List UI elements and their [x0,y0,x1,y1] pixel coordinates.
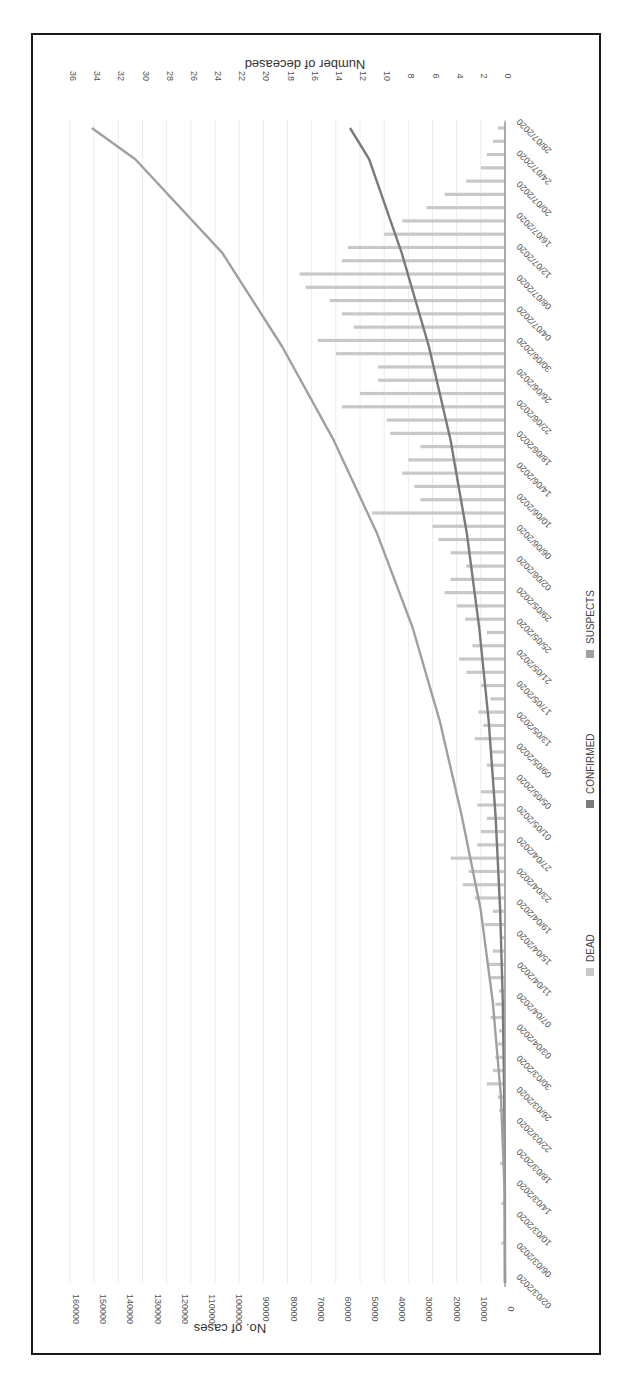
left-axis-tick: 100000 [234,1294,244,1324]
dead-bar [451,551,505,554]
dead-bar [445,193,505,196]
dead-bar [493,140,505,143]
legend-swatch-suspects [586,650,594,658]
left-axis-tick: 150000 [98,1294,108,1324]
dead-bar [408,458,505,461]
dead-bar [348,246,505,249]
legend-swatch-dead [586,968,594,976]
dead-bar [491,750,506,753]
dead-bar [330,299,505,302]
left-axis-tick: 50000 [370,1296,380,1321]
dead-bar [477,843,505,846]
dead-bar [498,126,505,129]
left-axis-tick: 140000 [125,1294,135,1324]
left-axis-tick: 0 [506,1306,516,1311]
right-axis-tick: 30 [141,71,151,81]
dead-bar [384,233,505,236]
dead-bar [342,405,505,408]
legend-label-suspects: SUSPECTS [585,590,596,644]
dead-bar [402,219,505,222]
right-axis-title: Number of deceased [245,57,366,72]
left-axis-tick: 70000 [316,1296,326,1321]
left-axis-tick: 10000 [479,1296,489,1321]
legend-swatch-confirmed [586,800,594,808]
dead-bar [487,764,505,767]
dead-bar [318,339,505,342]
left-axis-tick: 110000 [207,1294,217,1323]
dead-bar [472,644,505,647]
right-axis-tick: 26 [189,71,199,81]
dead-bar [466,671,505,674]
dead-bar [342,259,505,262]
dead-bar [420,498,505,501]
right-axis-tick: 36 [68,71,78,81]
dead-bar [493,777,505,780]
right-axis-tick: 6 [431,73,441,78]
dead-bar [378,365,505,368]
dead-bar [439,538,505,541]
dead-bars [300,126,505,1244]
dead-bar [300,272,505,275]
gridlines [70,120,505,1283]
dead-bar [483,724,505,727]
right-axis-tick: 28 [165,71,175,81]
legend-label-dead: DEAD [585,934,596,962]
right-axis-tick: 34 [92,71,102,81]
left-axis-tick: 80000 [289,1296,299,1321]
left-axis-tick: 90000 [261,1296,271,1321]
dead-bar [481,830,505,833]
dead-bar [477,803,505,806]
left-axis-title: No. of cases [193,1321,266,1336]
right-axis-tick: 24 [213,71,223,81]
dead-bar [433,525,506,528]
dead-bar [372,511,505,514]
dead-bar [487,631,505,634]
dead-bar [491,697,506,700]
left-axis-tick: 20000 [452,1296,462,1321]
dead-bar [466,180,505,183]
right-axis-tick: 8 [406,73,416,78]
left-axis-tick: 40000 [397,1296,407,1321]
left-axis-tick: 160000 [71,1294,81,1324]
right-axis-tick: 0 [503,73,513,78]
legend: DEADCONFIRMEDSUSPECTS [585,590,596,976]
dead-bar [478,711,505,714]
dead-bar [336,352,505,355]
right-axis-tick: 10 [382,71,392,81]
dead-bar [465,618,505,621]
dead-bar [451,578,505,581]
dead-bar [378,379,505,382]
right-axis-tick: 4 [455,73,465,78]
dead-bar [342,312,505,315]
dead-bar [306,286,505,289]
right-axis-tick: 32 [116,71,126,81]
left-axis-tick: 130000 [153,1294,163,1324]
chart-frame: 0246810121416182022242628303234360100002… [31,33,601,1355]
dead-bar [487,1082,505,1085]
dead-bar [493,950,505,953]
dead-bar [360,392,505,395]
legend-label-confirmed: CONFIRMED [585,733,596,794]
dead-bar [402,472,505,475]
dead-bar [484,923,505,926]
left-axis-tick: 30000 [424,1296,434,1321]
left-axis-tick: 60000 [343,1296,353,1321]
dead-bar [426,206,505,209]
chart-svg: 0246810121416182022242628303234360100002… [33,35,599,1353]
right-axis-tick: 2 [479,73,489,78]
dead-bar [457,604,505,607]
dead-bar [481,166,505,169]
left-axis-tick: 120000 [180,1294,190,1324]
dead-bar [354,326,505,329]
dead-bar [487,153,505,156]
dead-bar [420,445,505,448]
